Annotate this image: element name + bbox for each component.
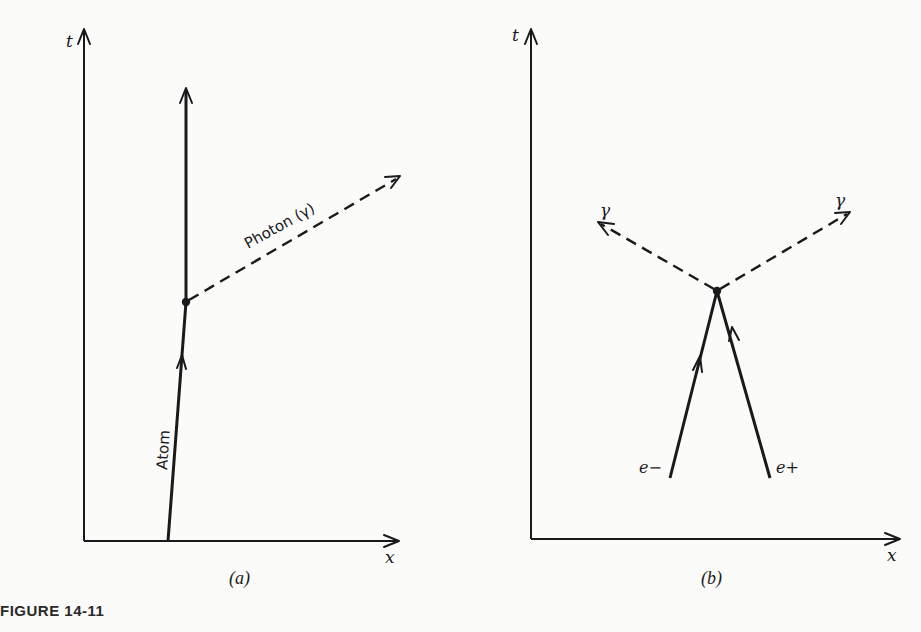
panel-b: t x e− e+ γ γ <box>512 25 900 565</box>
panel-b-t-axis <box>525 29 537 539</box>
photon-right-arrow-icon <box>835 212 850 224</box>
atom-worldline <box>168 88 192 541</box>
spacetime-diagram-figure: t x Atom Photon (γ) t <box>0 0 921 632</box>
panel-a-caption: (a) <box>229 568 250 589</box>
panel-a: t x Atom Photon (γ) <box>66 29 400 567</box>
atom-label: Atom <box>153 429 174 470</box>
photon-left-arrow-icon <box>598 222 614 235</box>
photon-label: Photon (γ) <box>241 199 318 252</box>
photon-right-worldline <box>720 212 850 289</box>
panel-a-t-axis <box>78 29 90 541</box>
photon-left-worldline <box>598 222 714 289</box>
positron-label: e+ <box>776 458 799 477</box>
panel-a-x-axis <box>84 535 399 547</box>
positron-worldline <box>717 291 770 478</box>
electron-label: e− <box>639 458 662 477</box>
electron-worldline <box>670 291 717 478</box>
photon-worldline <box>189 176 400 300</box>
panel-a-x-label: x <box>385 547 395 567</box>
photon-left-label: γ <box>600 200 611 220</box>
panel-b-x-axis <box>531 533 900 545</box>
panel-b-t-label: t <box>512 25 519 45</box>
panel-a-t-label: t <box>66 31 73 51</box>
panel-b-caption: (b) <box>701 568 722 589</box>
panel-b-x-label: x <box>887 545 897 565</box>
figure-title: FIGURE 14-11 <box>0 602 104 619</box>
photon-right-label: γ <box>835 190 846 210</box>
